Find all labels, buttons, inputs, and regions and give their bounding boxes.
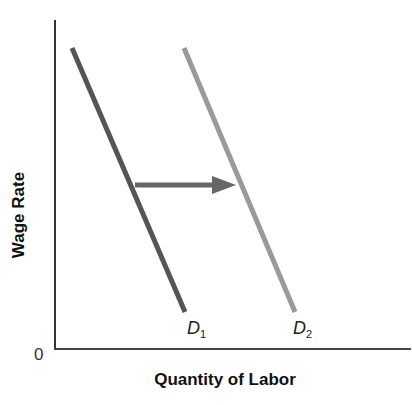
shift-arrow (135, 176, 236, 194)
demand-curve-d2 (184, 48, 295, 312)
d2-label: D2 (293, 318, 312, 340)
y-axis-label: Wage Rate (2, 140, 36, 290)
demand-curve-d1 (72, 48, 185, 312)
d1-label: D1 (187, 318, 206, 340)
chart-plot-area (0, 0, 412, 405)
x-axis-label: Quantity of Labor (140, 370, 310, 390)
origin-label: 0 (34, 345, 43, 365)
